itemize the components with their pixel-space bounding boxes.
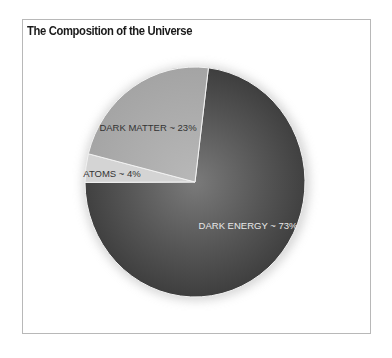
pie-chart: DARK ENERGY ~ 73%ATOMS ~ 4%DARK MATTER ~… [0, 0, 392, 358]
label-dark-matter: DARK MATTER ~ 23% [99, 122, 197, 133]
label-atoms: ATOMS ~ 4% [83, 168, 141, 179]
label-dark-energy: DARK ENERGY ~ 73% [199, 220, 298, 231]
